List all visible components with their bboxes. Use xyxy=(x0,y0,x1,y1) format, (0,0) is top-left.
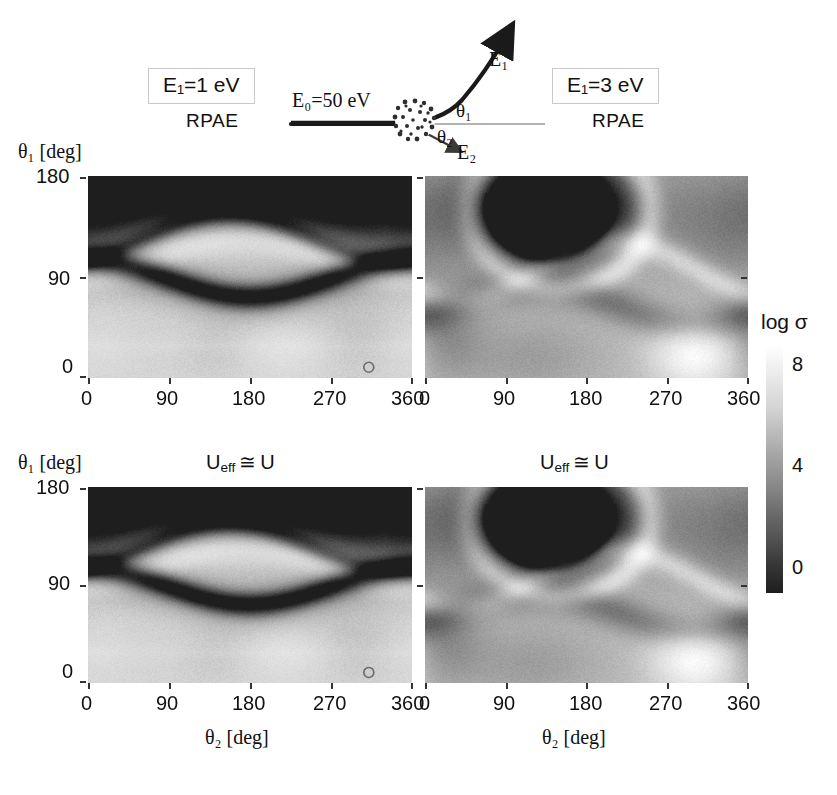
x-tickmark-0-top-right xyxy=(425,378,427,384)
y-tickmark-90-top-left xyxy=(80,277,86,279)
x-tickmark-90-bottom-right xyxy=(506,683,508,689)
y-tick-180-bottom-left: 180 xyxy=(36,476,69,499)
y-tickmark-180-top-left xyxy=(80,177,86,179)
figure-root: E₁=1 eV RPAE E₁=3 eV RPAE xyxy=(0,0,837,795)
ueff-u-main-left: U xyxy=(206,451,220,473)
x-tick-270-top-right: 270 xyxy=(649,387,682,410)
y-tick-0-top-left: 0 xyxy=(62,355,73,378)
y-axis-label-top-left: θ₁ [deg] xyxy=(18,140,82,163)
x-tickmark-180-top-left xyxy=(250,378,252,384)
y-tickmark-0-bottom-left xyxy=(80,681,86,683)
x-tickmark-90-top-right xyxy=(506,378,508,384)
x-tick-0-top-left: 0 xyxy=(81,387,92,410)
ueff-tail-right: U xyxy=(594,451,608,473)
x-tick-180-bottom-left: 180 xyxy=(232,692,265,715)
y-tick-180-top-left: 180 xyxy=(36,165,69,188)
x-tick-0-bottom-right: 0 xyxy=(419,692,430,715)
x-tick-90-top-right: 90 xyxy=(493,387,515,410)
heatmap-canvas-top-right xyxy=(425,176,748,378)
y-tickmark-90-bottom-left xyxy=(80,585,86,587)
angle-theta1-label: θ₁ xyxy=(456,100,472,122)
x-tickmark-180-top-right xyxy=(586,378,588,384)
heatmap-canvas-bottom-left xyxy=(88,487,412,683)
panel-title-bottom-left: Ueff≅U xyxy=(206,450,275,475)
x-tickmark-360-top-left xyxy=(411,378,413,384)
x-tick-270-top-left: 270 xyxy=(313,387,346,410)
x-tickmark-0-bottom-right xyxy=(425,683,427,689)
ueff-approx-right: ≅ xyxy=(573,451,590,473)
x-tick-180-bottom-right: 180 xyxy=(569,692,602,715)
ueff-sub-right: eff xyxy=(554,460,569,475)
y-tickmark-90r-top-right xyxy=(741,277,747,279)
x-tick-270-bottom-right: 270 xyxy=(649,692,682,715)
y-tickmark-180-bottom-left xyxy=(80,488,86,490)
x-tickmark-360-top-right xyxy=(747,378,749,384)
heatmap-panel-bottom-right xyxy=(425,487,748,683)
heatmap-panel-bottom-left xyxy=(88,487,412,683)
colorbar-canvas xyxy=(766,345,783,593)
x-tickmark-360-bottom-right xyxy=(747,683,749,689)
y-tickmark-0-top-left xyxy=(80,376,86,378)
x-tickmark-180-bottom-left xyxy=(250,683,252,689)
x-axis-label-bottom-right: θ₂ [deg] xyxy=(542,726,606,749)
ueff-tail-left: U xyxy=(260,451,274,473)
heatmap-panel-top-left xyxy=(88,176,412,378)
x-tick-90-top-left: 90 xyxy=(156,387,178,410)
colorbar-tick-0: 0 xyxy=(792,556,803,579)
ueff-u-main-right: U xyxy=(540,451,554,473)
x-tick-270-bottom-left: 270 xyxy=(313,692,346,715)
x-tickmark-90-top-left xyxy=(169,378,171,384)
x-tick-360-bottom-right: 360 xyxy=(727,692,760,715)
x-tickmark-0-top-left xyxy=(88,378,90,384)
x-tick-180-top-left: 180 xyxy=(232,387,265,410)
x-tick-0-bottom-left: 0 xyxy=(81,692,92,715)
colorbar-tick-8: 8 xyxy=(792,353,803,376)
y-tick-0-bottom-left: 0 xyxy=(62,660,73,683)
y-tickmark-180-top-right xyxy=(417,177,423,179)
x-tickmark-360-bottom-left xyxy=(411,683,413,689)
ueff-approx-left: ≅ xyxy=(239,451,256,473)
y-axis-label-bottom-left: θ₁ [deg] xyxy=(18,451,82,474)
x-tickmark-270-top-right xyxy=(667,378,669,384)
x-tick-180-top-right: 180 xyxy=(569,387,602,410)
x-tick-90-bottom-left: 90 xyxy=(156,692,178,715)
y-tick-90-top-left: 90 xyxy=(48,267,70,290)
x-tick-360-top-right: 360 xyxy=(727,387,760,410)
incident-energy-label: E₀=50 eV xyxy=(292,89,371,112)
x-tickmark-90-bottom-left xyxy=(169,683,171,689)
ueff-sub-left: eff xyxy=(220,460,235,475)
heatmap-canvas-bottom-right xyxy=(425,487,748,683)
y-tickmark-90-bottom-right xyxy=(417,585,423,587)
x-tick-0-top-right: 0 xyxy=(419,387,430,410)
schematic-diagram: E₁=1 eV RPAE E₁=3 eV RPAE xyxy=(0,0,837,175)
x-tickmark-270-bottom-right xyxy=(667,683,669,689)
y-tickmark-90-top-right xyxy=(417,277,423,279)
fast-electron-label: E₁ xyxy=(489,48,508,71)
y-tickmark-90r-bottom-right xyxy=(741,585,747,587)
angle-theta2-label: θ₂ xyxy=(437,126,453,148)
panel-title-bottom-right: Ueff≅U xyxy=(540,450,609,475)
schematic-svg xyxy=(0,0,837,175)
slow-electron-label: E₂ xyxy=(457,141,476,164)
x-axis-label-bottom-left: θ₂ [deg] xyxy=(205,726,269,749)
heatmap-panel-top-right xyxy=(425,176,748,378)
colorbar-tick-4: 4 xyxy=(792,454,803,477)
y-tickmark-180-bottom-right xyxy=(417,488,423,490)
x-tickmark-0-bottom-left xyxy=(88,683,90,689)
x-tick-90-bottom-right: 90 xyxy=(493,692,515,715)
colorbar-title: log σ xyxy=(761,310,808,334)
colorbar xyxy=(766,345,783,593)
heatmap-canvas-top-left xyxy=(88,176,412,378)
x-tickmark-270-top-left xyxy=(331,378,333,384)
y-tick-90-bottom-left: 90 xyxy=(48,572,70,595)
x-tickmark-180-bottom-right xyxy=(586,683,588,689)
x-tickmark-270-bottom-left xyxy=(331,683,333,689)
